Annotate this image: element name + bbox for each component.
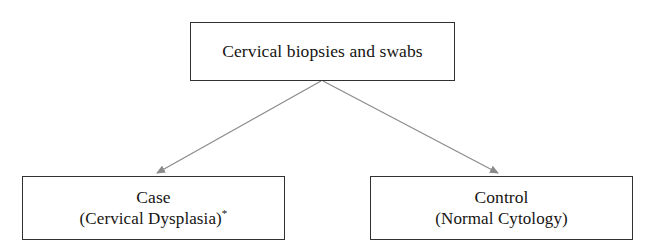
flowchart-diagram: Cervical biopsies and swabs Case (Cervic… <box>0 0 652 252</box>
node-case-subtitle-row: (Cervical Dysplasia)* <box>80 208 228 230</box>
footnote-asterisk-icon: * <box>222 208 228 220</box>
node-cervical-biopsies-and-swabs: Cervical biopsies and swabs <box>190 22 455 81</box>
node-control: Control (Normal Cytology) <box>370 176 633 240</box>
node-case-subtitle: (Cervical Dysplasia) <box>80 209 222 228</box>
node-control-title: Control <box>474 186 528 208</box>
connector-source-to-case <box>157 81 321 173</box>
node-source-label: Cervical biopsies and swabs <box>222 40 423 62</box>
connector-source-to-control <box>323 81 498 173</box>
node-control-subtitle: (Normal Cytology) <box>435 208 568 230</box>
node-case: Case (Cervical Dysplasia)* <box>22 176 285 240</box>
node-case-title: Case <box>136 186 170 208</box>
